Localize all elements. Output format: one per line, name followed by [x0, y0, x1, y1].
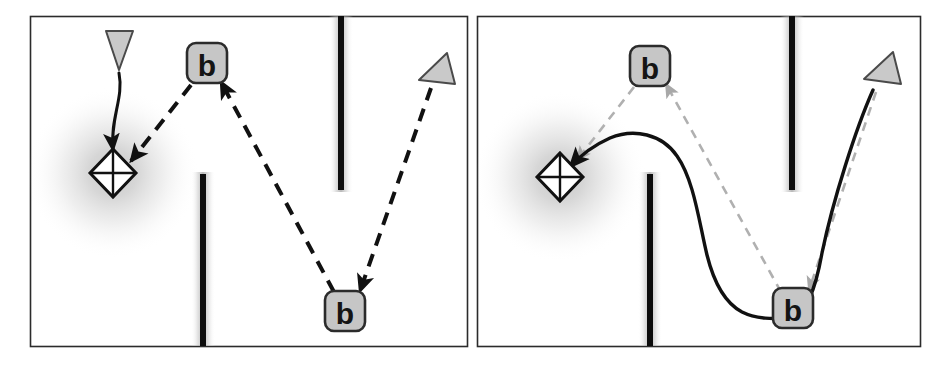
left-panel: b b — [27, 16, 468, 347]
waypoint-node-upper-label: b — [198, 49, 216, 82]
right-panel: b b — [474, 16, 921, 347]
waypoint-node-lower-label: b — [784, 294, 802, 327]
waypoint-node-lower[interactable]: b — [773, 288, 813, 328]
waypoint-node-upper-label: b — [641, 52, 659, 85]
obstacle-lower-middle — [638, 172, 662, 346]
obstacle-lower-middle — [191, 172, 215, 346]
waypoint-node-upper[interactable]: b — [187, 43, 227, 83]
figure-container: b b — [0, 0, 943, 369]
obstacle-upper-right — [780, 16, 804, 192]
waypoint-node-lower-label: b — [336, 297, 354, 330]
waypoint-node-lower[interactable]: b — [325, 291, 365, 331]
diagram-canvas: b b — [0, 0, 943, 369]
waypoint-node-upper[interactable]: b — [630, 46, 670, 86]
obstacle-upper-right — [329, 16, 353, 192]
